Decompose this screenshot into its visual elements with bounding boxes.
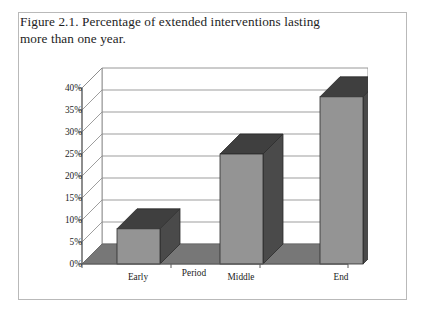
- figure-caption: Figure 2.1. Percentage of extended inter…: [20, 14, 350, 47]
- x-axis-title: Period: [20, 268, 368, 278]
- bar-chart: 0% 5% 10% 15% 20% 25% 30% 35% 40% Early …: [20, 56, 368, 284]
- x-axis-tick-labels: Early Middle End: [20, 56, 368, 284]
